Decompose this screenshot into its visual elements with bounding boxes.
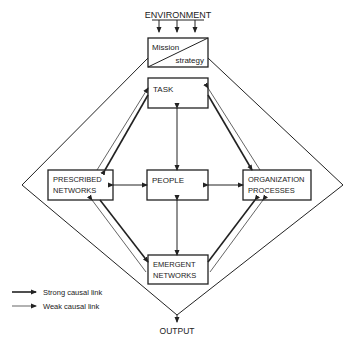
mission-strategy-box: Mission strategy	[148, 38, 208, 67]
svg-text:PRESCRIBED: PRESCRIBED	[53, 175, 102, 184]
prescribed-networks-box: PRESCRIBED NETWORKS	[48, 170, 113, 200]
svg-text:NETWORKS: NETWORKS	[53, 186, 96, 195]
organization-processes-box: ORGANIZATION PROCESSES	[243, 170, 311, 200]
svg-text:NETWORKS: NETWORKS	[153, 271, 196, 280]
svg-text:PROCESSES: PROCESSES	[248, 186, 295, 195]
people-box: PEOPLE	[147, 170, 208, 200]
svg-text:strategy: strategy	[176, 56, 204, 65]
legend: Strong causal link Weak causal link	[12, 288, 102, 311]
svg-text:ORGANIZATION: ORGANIZATION	[248, 175, 305, 184]
svg-text:PEOPLE: PEOPLE	[152, 176, 184, 185]
legend-strong-label: Strong causal link	[43, 288, 102, 297]
svg-text:Mission: Mission	[152, 43, 179, 52]
legend-weak-label: Weak causal link	[43, 302, 99, 311]
environment-label: ENVIRONMENT	[145, 10, 212, 20]
emergent-networks-box: EMERGENT NETWORKS	[148, 255, 208, 284]
task-box: TASK	[148, 78, 208, 108]
svg-text:TASK: TASK	[153, 85, 174, 94]
organization-model-diagram: ENVIRONMENT Mission strategy TASK PRESCR…	[0, 0, 353, 344]
environment-arrows	[159, 20, 195, 32]
output-label: OUTPUT	[160, 326, 195, 336]
svg-text:EMERGENT: EMERGENT	[153, 260, 196, 269]
